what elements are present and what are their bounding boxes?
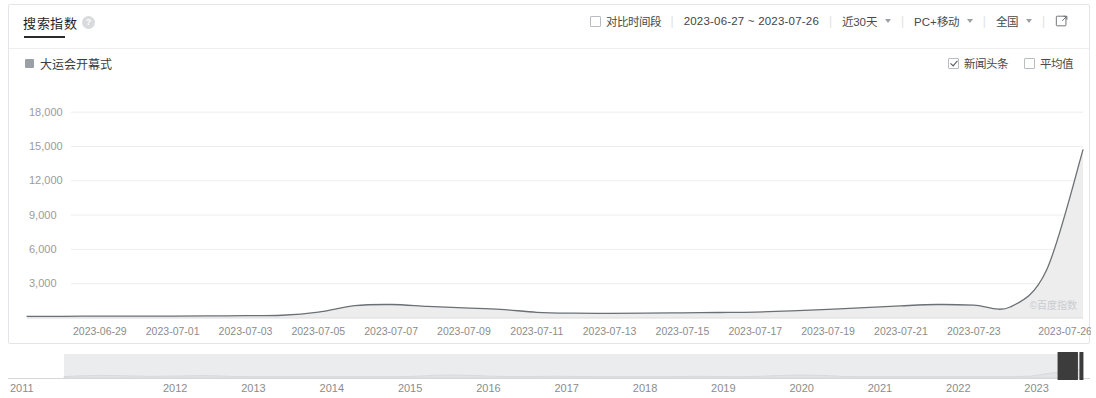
compare-period-toggle[interactable]: 对比时间段 — [580, 13, 671, 29]
x-axis-tick-label: 2023-07-19 — [801, 325, 855, 337]
average-value-checkbox[interactable] — [1024, 58, 1035, 69]
x-axis-tick-label: 2023-07-09 — [437, 325, 491, 337]
x-axis-labels: 2023-06-292023-07-012023-07-032023-07-05… — [73, 325, 1091, 337]
baidu-index-page: 搜索指数 ? 对比时间段 | 2023-06-27 ~ 2023-07-26 |… — [0, 0, 1096, 398]
timeline-brush-svg: 2011201220132014201520162017201820192020… — [8, 350, 1090, 396]
date-range-display[interactable]: 2023-06-27 ~ 2023-07-26 — [674, 15, 829, 27]
timeline-year-label: 2019 — [711, 382, 735, 394]
search-index-card: 搜索指数 ? 对比时间段 | 2023-06-27 ~ 2023-07-26 |… — [8, 4, 1090, 344]
watermark: ©百度指数 — [1030, 299, 1077, 311]
timeline-year-label: 2017 — [554, 382, 578, 394]
question-mark-icon[interactable]: ? — [82, 16, 95, 29]
region-dropdown[interactable]: 全国 — [986, 13, 1042, 29]
x-axis-tick-label: 2023-07-17 — [728, 325, 782, 337]
chevron-down-icon — [1026, 19, 1032, 23]
average-value-toggle[interactable]: 平均值 — [1024, 55, 1073, 71]
timeline-year-label: 2020 — [789, 382, 813, 394]
x-axis-tick-label: 2023-07-26 — [1038, 325, 1091, 337]
brush-track[interactable] — [64, 354, 1082, 378]
series-line — [27, 150, 1083, 316]
export-button[interactable] — [1045, 14, 1079, 28]
x-axis-tick-label: 2023-07-21 — [874, 325, 928, 337]
device-label: PC+移动 — [914, 13, 959, 29]
y-axis-tick-label: 3,000 — [29, 277, 57, 289]
news-headline-toggle[interactable]: 新闻头条 — [948, 55, 1008, 71]
brush-handle-left[interactable] — [1058, 352, 1078, 380]
brush-selection-handle[interactable] — [1058, 352, 1084, 380]
timeline-year-label: 2021 — [868, 382, 892, 394]
card-header: 搜索指数 ? 对比时间段 | 2023-06-27 ~ 2023-07-26 |… — [9, 5, 1089, 49]
series-area — [27, 150, 1083, 318]
y-axis-tick-label: 12,000 — [29, 174, 63, 186]
x-axis-tick-label: 2023-07-05 — [291, 325, 345, 337]
timeline-year-label: 2015 — [398, 382, 422, 394]
y-axis-labels: 3,0006,0009,00012,00015,00018,000 — [29, 106, 63, 290]
x-axis-tick-label: 2023-07-01 — [146, 325, 200, 337]
search-index-tab[interactable]: 搜索指数 ? — [23, 13, 95, 32]
active-tab-indicator — [24, 36, 65, 38]
page-title: 搜索指数 — [23, 13, 77, 32]
keyword-label: 大运会开幕式 — [40, 55, 112, 72]
x-axis-tick-label: 2023-07-23 — [947, 325, 1001, 337]
news-headline-checkbox[interactable] — [948, 58, 959, 69]
timeline-year-label: 2022 — [946, 382, 970, 394]
timeline-brush[interactable]: 2011201220132014201520162017201820192020… — [8, 350, 1090, 396]
keyword-legend-item[interactable]: 大运会开幕式 — [25, 55, 112, 72]
timeline-year-labels: 2011201220132014201520162017201820192020… — [10, 382, 1049, 394]
external-link-icon — [1055, 14, 1069, 28]
trend-chart-svg: 3,0006,0009,00012,00015,00018,000 2023-0… — [9, 81, 1091, 343]
x-axis-tick-label: 2023-07-15 — [656, 325, 710, 337]
region-label: 全国 — [996, 13, 1018, 29]
date-range-label: 2023-06-27 ~ 2023-07-26 — [684, 15, 819, 27]
brush-handle-right[interactable] — [1079, 352, 1083, 380]
header-controls: 对比时间段 | 2023-06-27 ~ 2023-07-26 | 近30天 |… — [580, 5, 1079, 37]
timeline-year-label: 2014 — [320, 382, 344, 394]
x-axis-tick-label: 2023-07-11 — [510, 325, 563, 337]
average-value-label: 平均值 — [1040, 55, 1073, 71]
period-label: 近30天 — [842, 13, 877, 29]
news-headline-label: 新闻头条 — [964, 55, 1008, 71]
x-axis-tick-label: 2023-07-07 — [364, 325, 418, 337]
legend-row: 大运会开幕式 新闻头条 平均值 — [9, 51, 1089, 77]
timeline-year-label: 2018 — [633, 382, 657, 394]
y-axis-tick-label: 18,000 — [29, 106, 63, 118]
series-color-swatch — [25, 59, 34, 68]
x-axis-tick-label: 2023-06-29 — [73, 325, 127, 337]
device-dropdown[interactable]: PC+移动 — [904, 13, 983, 29]
x-axis-tick-label: 2023-07-03 — [219, 325, 273, 337]
period-dropdown[interactable]: 近30天 — [832, 13, 901, 29]
chevron-down-icon — [967, 19, 973, 23]
y-axis-tick-label: 15,000 — [29, 140, 63, 152]
timeline-year-label: 2012 — [163, 382, 187, 394]
compare-period-label: 对比时间段 — [606, 13, 661, 29]
y-axis-tick-label: 6,000 — [29, 243, 57, 255]
x-axis-tick-label: 2023-07-13 — [583, 325, 637, 337]
compare-period-checkbox[interactable] — [590, 16, 601, 27]
timeline-year-label: 2023 — [1024, 382, 1048, 394]
y-axis-tick-label: 9,000 — [29, 209, 57, 221]
chevron-down-icon — [885, 19, 891, 23]
timeline-year-label: 2011 — [10, 382, 34, 394]
grid-lines — [71, 112, 1083, 284]
legend-options: 新闻头条 平均值 — [948, 55, 1073, 71]
trend-chart[interactable]: 3,0006,0009,00012,00015,00018,000 2023-0… — [9, 81, 1091, 343]
timeline-year-label: 2013 — [241, 382, 265, 394]
timeline-year-label: 2016 — [476, 382, 500, 394]
